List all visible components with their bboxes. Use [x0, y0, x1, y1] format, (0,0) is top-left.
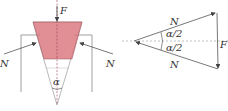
label-F-right: F — [219, 39, 228, 50]
wedge-shaded — [33, 22, 82, 59]
label-half-alpha-bottom: α/2 — [166, 42, 182, 53]
diagram-svg: F N N α N α/2 α/2 N F — [0, 0, 228, 111]
label-N-right: N — [105, 58, 116, 69]
label-half-alpha-top: α/2 — [166, 28, 182, 39]
half-angle-arcs — [161, 32, 163, 50]
right-wall — [74, 35, 92, 92]
vector-F — [217, 13, 218, 68]
normal-arrow-left — [4, 43, 36, 54]
label-N-top: N — [169, 16, 180, 27]
label-alpha: α — [53, 76, 60, 87]
normal-arrow-right — [80, 43, 113, 54]
wedge-force-diagram: F N N α N α/2 α/2 N F — [0, 0, 228, 111]
force-triangle: N α/2 α/2 N F — [122, 13, 228, 70]
label-F: F — [59, 5, 68, 16]
label-N-bottom: N — [169, 59, 180, 70]
label-N-left: N — [0, 58, 10, 69]
left-wall — [21, 35, 40, 92]
wedge-figure: F N N α — [0, 0, 116, 105]
